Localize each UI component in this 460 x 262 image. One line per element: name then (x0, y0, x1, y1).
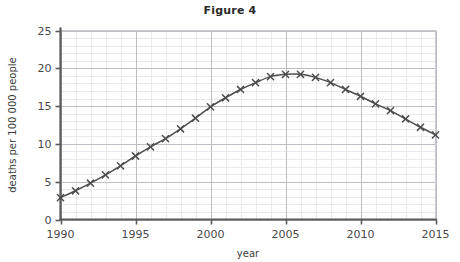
line-chart: 199019952000200520102015 0510152025 year… (0, 0, 460, 262)
data-point-marker (177, 126, 183, 132)
data-point-marker (372, 101, 378, 107)
x-axis-title: year (237, 248, 260, 259)
data-point-marker (117, 163, 123, 169)
major-gridlines (61, 31, 437, 221)
data-point-marker (327, 80, 333, 86)
data-point-marker (72, 188, 78, 194)
data-line (61, 74, 436, 198)
x-tick-label: 1995 (122, 228, 150, 241)
data-point-marker (87, 180, 93, 186)
y-tick-label: 15 (38, 100, 52, 113)
figure-container: Figure 4 199019952000200520102015 051015… (0, 0, 460, 262)
x-tick-label: 2010 (347, 228, 375, 241)
plot-frame (61, 31, 436, 220)
axis-spines (61, 29, 436, 220)
y-tick-label: 5 (45, 176, 52, 189)
data-point-marker (387, 108, 393, 114)
data-point-marker (132, 153, 138, 159)
data-markers (57, 71, 438, 200)
axis-ticks (56, 32, 437, 225)
x-tick-label: 1990 (47, 228, 75, 241)
data-point-marker (252, 80, 258, 86)
minor-gridlines (61, 31, 437, 221)
y-tick-labels: 0510152025 (38, 25, 52, 227)
data-point-marker (192, 115, 198, 121)
y-axis-title: deaths per 100 000 people (7, 57, 18, 193)
y-tick-label: 25 (38, 25, 52, 38)
data-point-marker (222, 95, 228, 101)
x-tick-label: 2000 (197, 228, 225, 241)
x-tick-label: 2005 (272, 228, 300, 241)
y-tick-label: 10 (38, 138, 52, 151)
y-tick-label: 0 (45, 214, 52, 227)
data-point-marker (357, 93, 363, 99)
y-tick-label: 20 (38, 62, 52, 75)
x-tick-label: 2015 (422, 228, 450, 241)
x-tick-labels: 199019952000200520102015 (47, 228, 450, 241)
